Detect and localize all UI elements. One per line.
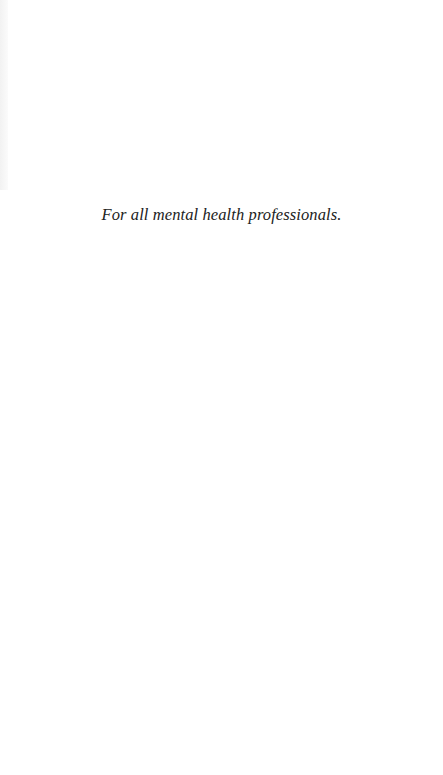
dedication-text: For all mental health professionals. (0, 205, 443, 225)
book-page: For all mental health professionals. (0, 0, 443, 775)
page-edge-shadow (0, 0, 8, 190)
